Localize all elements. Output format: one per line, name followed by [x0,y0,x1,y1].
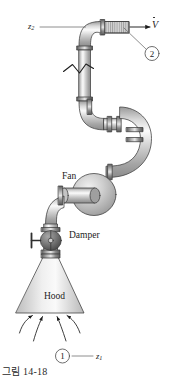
elevation-z1-subscript: 1 [99,355,102,361]
flow-rate-symbol: V [152,19,158,30]
top-elbow [77,21,101,50]
hood [16,254,84,313]
station-1-label: 1 [60,351,65,361]
s-bend [79,99,121,132]
damper-label: Damper [69,231,100,241]
duct-system-diagram: 2 1 [0,0,172,378]
vertical-riser [77,50,93,101]
elevation-z2-label: z2 [28,22,34,31]
elevation-z2-subscript: 2 [31,25,34,31]
intake-arrows [20,316,81,342]
station-2-label: 2 [150,49,155,59]
station2-leader [124,28,146,49]
figure-root: 2 1 Fan Damper Hood z2 z1 V 그림 14-18 [0,0,172,378]
elevation-z1-label: z1 [96,352,102,361]
outlet-duct [101,20,130,36]
hood-label: Hood [44,292,65,302]
figure-caption: 그림 14-18 [2,367,47,377]
fan-label: Fan [62,172,76,182]
u-bend [106,107,152,180]
flow-rate-label: V [152,20,158,30]
damper [32,224,62,256]
fan [46,174,117,226]
